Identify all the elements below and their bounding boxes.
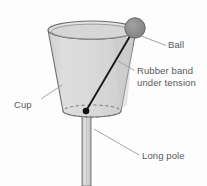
leader-line-ball (141, 36, 166, 46)
ball (125, 18, 145, 38)
label-rubber-band-line1: Rubber band (137, 65, 193, 76)
diagram-container: Ball Rubber band under tension Cup Long … (0, 0, 207, 186)
label-long-pole: Long pole (142, 150, 185, 161)
leader-line-long-pole (94, 129, 139, 155)
cup-rim-inner (52, 24, 133, 39)
leader-line-cup (41, 85, 62, 99)
label-ball: Ball (168, 39, 184, 50)
label-rubber-band-line2: under tension (137, 77, 196, 88)
rubber-band-anchor-dot (83, 108, 90, 115)
long-pole (82, 106, 91, 186)
label-cup: Cup (14, 99, 32, 110)
cup-ball-pole-diagram: Ball Rubber band under tension Cup Long … (0, 0, 207, 186)
